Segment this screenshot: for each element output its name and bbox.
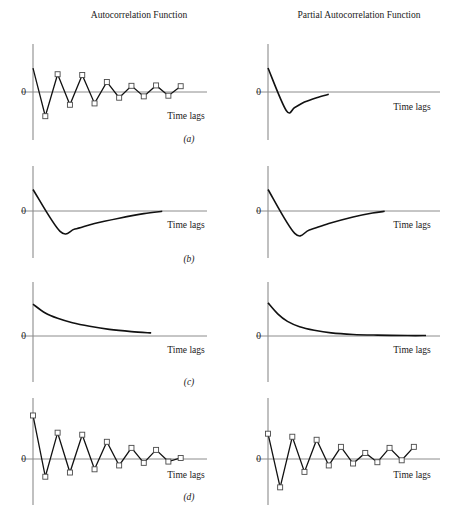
series-line-acf-d (33, 415, 181, 476)
data-marker (104, 439, 109, 444)
data-marker (178, 455, 183, 460)
series-line-pacf-d (268, 434, 414, 488)
data-marker (129, 445, 134, 450)
data-marker (314, 437, 319, 442)
data-marker (67, 102, 72, 107)
chart-acf-a (21, 44, 207, 140)
data-marker (399, 458, 404, 463)
xaxis-label-a-right: Time lags (393, 102, 431, 112)
column-title-acf: Autocorrelation Function (91, 10, 188, 20)
acf-pacf-figure-panel: Autocorrelation Function Partial Autocor… (0, 0, 452, 528)
data-marker (178, 84, 183, 89)
chart-acf-c (21, 282, 207, 382)
chart-acf-b (21, 166, 207, 258)
data-marker (154, 83, 159, 88)
zero-label-b-right: 0 (256, 206, 261, 216)
data-marker (338, 444, 343, 449)
data-marker (351, 461, 356, 466)
data-marker (363, 450, 368, 455)
data-marker (290, 434, 295, 439)
series-curve-pacf-a (268, 68, 329, 113)
data-marker (411, 444, 416, 449)
panel-label-c: (c) (184, 377, 195, 388)
data-marker (117, 95, 122, 100)
data-marker (266, 431, 271, 436)
xaxis-label-c-right: Time lags (393, 345, 431, 355)
chart-pacf-b (256, 166, 440, 258)
data-marker (166, 93, 171, 98)
series-curve-pacf-b (268, 189, 385, 235)
xaxis-label-b-left: Time lags (167, 220, 205, 230)
data-marker (117, 463, 122, 468)
data-marker (141, 94, 146, 99)
data-marker (43, 114, 48, 119)
xaxis-label-d-left: Time lags (167, 470, 205, 480)
data-marker (31, 413, 36, 418)
xaxis-label-b-right: Time lags (393, 220, 431, 230)
panel-label-d: (d) (183, 492, 194, 503)
xaxis-label-d-right: Time lags (393, 470, 431, 480)
data-marker (375, 460, 380, 465)
panel-label-b: (b) (183, 254, 194, 265)
series-curve-acf-c (33, 304, 151, 333)
zero-label-b-left: 0 (21, 206, 26, 216)
xaxis-label-a-left: Time lags (167, 111, 205, 121)
zero-label-c-right: 0 (256, 331, 261, 341)
zero-label-d-right: 0 (256, 454, 261, 464)
data-marker (302, 469, 307, 474)
data-marker (129, 83, 134, 88)
zero-label-a-right: 0 (256, 87, 261, 97)
data-marker (80, 73, 85, 78)
data-marker (278, 485, 283, 490)
series-curve-acf-b (33, 189, 162, 234)
chart-acf-d (21, 398, 207, 505)
data-marker (67, 470, 72, 475)
panel-label-a: (a) (183, 134, 194, 145)
data-marker (80, 432, 85, 437)
xaxis-label-c-left: Time lags (167, 345, 205, 355)
data-marker (326, 463, 331, 468)
data-marker (92, 101, 97, 106)
chart-pacf-d (256, 398, 440, 505)
chart-pacf-a (256, 44, 440, 140)
data-marker (92, 467, 97, 472)
plot-group (21, 44, 440, 505)
zero-label-c-left: 0 (21, 331, 26, 341)
data-marker (43, 474, 48, 479)
data-marker (166, 459, 171, 464)
column-title-pacf: Partial Autocorrelation Function (298, 10, 421, 20)
data-marker (104, 79, 109, 84)
data-marker (154, 447, 159, 452)
zero-label-a-left: 0 (21, 87, 26, 97)
zero-label-d-left: 0 (21, 454, 26, 464)
data-marker (55, 430, 60, 435)
data-marker (141, 460, 146, 465)
series-curve-pacf-c (268, 303, 426, 336)
data-marker (387, 445, 392, 450)
data-marker (55, 72, 60, 77)
chart-pacf-c (256, 282, 440, 382)
